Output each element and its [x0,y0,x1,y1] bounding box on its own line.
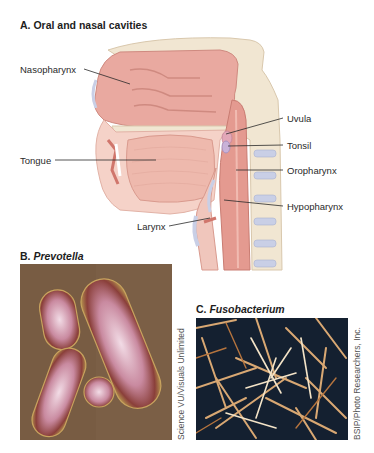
panel-b-title-text: Prevotella [33,250,83,262]
fusobacterium-fibers-icon [196,318,348,440]
label-larynx: Larynx [137,221,166,232]
prevotella-cells-icon [20,264,172,440]
panel-c-letter: C. [196,303,207,315]
panel-b-title: B. Prevotella [20,250,84,262]
panel-b-credit: Science VU/Visuals Unlimited [176,328,186,440]
panel-b-letter: B. [20,250,31,262]
label-tongue: Tongue [20,155,51,166]
panel-c-credit: BSIP/Photo Researchers, Inc. [352,327,362,440]
label-nasopharynx: Nasopharynx [20,64,76,75]
label-oropharynx: Oropharynx [287,165,337,176]
panel-c-title-text: Fusobacterium [209,303,284,315]
label-hypopharynx: Hypopharynx [287,201,343,212]
panel-c-title: C. Fusobacterium [196,303,285,315]
prevotella-micrograph [20,264,172,440]
label-tonsil: Tonsil [287,140,311,151]
fusobacterium-micrograph [196,318,348,440]
label-uvula: Uvula [287,113,311,124]
